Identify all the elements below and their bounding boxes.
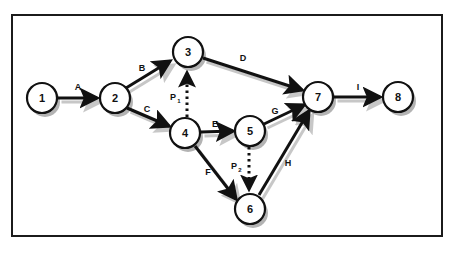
- node-3-label: 3: [185, 46, 191, 58]
- edge-F: [195, 146, 236, 199]
- edge-label-F: F: [205, 167, 211, 177]
- edge-label-D: D: [240, 53, 247, 63]
- node-2[interactable]: 2: [100, 83, 130, 113]
- dummy-label-P2: P 2: [231, 161, 242, 173]
- edge-B: [126, 61, 170, 88]
- node-5[interactable]: 5: [235, 116, 265, 146]
- edge-label-G: G: [271, 106, 278, 116]
- edge-label-C: C: [144, 104, 151, 114]
- node-1-label: 1: [39, 92, 45, 104]
- edge-label-B: B: [139, 63, 146, 73]
- node-7-label: 7: [315, 91, 321, 103]
- edge-label-E: E: [212, 119, 218, 129]
- node-4-label: 4: [182, 127, 189, 139]
- edge-label-I: I: [357, 82, 360, 92]
- node-8-label: 8: [395, 91, 401, 103]
- node-2-label: 2: [112, 92, 118, 104]
- node-6-label: 6: [247, 203, 253, 215]
- node-8[interactable]: 8: [383, 82, 413, 112]
- dummy-label-P1-subscript: 1: [177, 98, 181, 104]
- node-3[interactable]: 3: [173, 37, 203, 67]
- dummy-label-P2-subscript: 2: [238, 167, 242, 173]
- edge-D: [203, 58, 302, 90]
- node-6[interactable]: 6: [235, 194, 265, 224]
- diagram-page: 1 2 3 4 5 6 7: [0, 0, 454, 254]
- edge-label-H: H: [285, 158, 292, 168]
- node-7[interactable]: 7: [303, 82, 333, 112]
- node-5-label: 5: [247, 125, 253, 137]
- edge-layer: [58, 58, 380, 199]
- node-1[interactable]: 1: [27, 83, 57, 113]
- network-diagram-graph: 1 2 3 4 5 6 7: [0, 0, 454, 254]
- dummy-label-P1-text: P: [170, 92, 176, 102]
- edge-label-A: A: [75, 82, 82, 92]
- dummy-label-P1: P 1: [170, 92, 181, 104]
- dummy-label-P2-text: P: [231, 161, 237, 171]
- node-4[interactable]: 4: [170, 118, 200, 148]
- edge-E: [201, 131, 233, 132]
